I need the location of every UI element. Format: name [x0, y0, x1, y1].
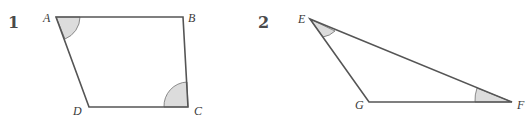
diagram-canvas: 1 A B C D 2 E F G [0, 0, 528, 120]
angle-c-marker [164, 82, 188, 107]
figure-1: 1 A B C D [8, 11, 203, 118]
vertex-label-d: D [72, 104, 82, 118]
vertex-label-g: G [355, 98, 364, 112]
vertex-label-c: C [194, 104, 203, 118]
vertex-label-b: B [188, 11, 196, 25]
vertex-label-a: A [42, 11, 51, 25]
triangle-efg [310, 19, 512, 102]
figure-2: 2 E F G [258, 12, 525, 112]
vertex-label-f: F [516, 98, 525, 112]
figure-1-number: 1 [8, 13, 19, 32]
figure-2-number: 2 [258, 13, 269, 32]
vertex-label-e: E [297, 12, 306, 26]
